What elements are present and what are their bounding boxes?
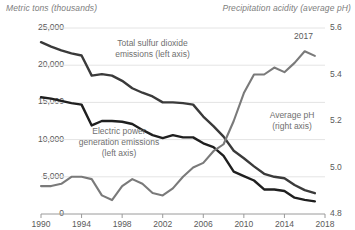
right-y-tick-label: 5.2 xyxy=(330,116,355,125)
x-tick-label: 1994 xyxy=(72,220,91,229)
right-y-tick-label: 5.4 xyxy=(330,70,355,79)
x-tick-label: 1990 xyxy=(32,220,51,229)
acid-rain-line-chart: Metric tons (thousands) Precipitation ac… xyxy=(0,0,355,230)
x-tick-label: 2006 xyxy=(194,220,213,229)
annotation-end-year: 2017 xyxy=(294,31,334,42)
right-y-tick-label: 4.8 xyxy=(330,209,355,218)
left-axis-title: Metric tons (thousands) xyxy=(6,3,97,13)
x-tick-label: 2010 xyxy=(234,220,253,229)
right-axis-title: Precipitation acidity (average pH) xyxy=(222,3,351,13)
x-tick-label: 2002 xyxy=(153,220,172,229)
annotation-total-so2: Total sulfur dioxide emissions (left axi… xyxy=(95,38,210,60)
annotation-average-ph: Average pH (right axis) xyxy=(252,110,332,132)
x-tick-label: 2018 xyxy=(316,220,335,229)
axis-lines xyxy=(41,214,325,218)
x-tick-label: 1998 xyxy=(113,220,132,229)
x-tick-label: 2014 xyxy=(275,220,294,229)
right-y-tick-label: 5.0 xyxy=(330,163,355,172)
annotation-electric-power: Electric power generation emissions (lef… xyxy=(58,126,180,159)
